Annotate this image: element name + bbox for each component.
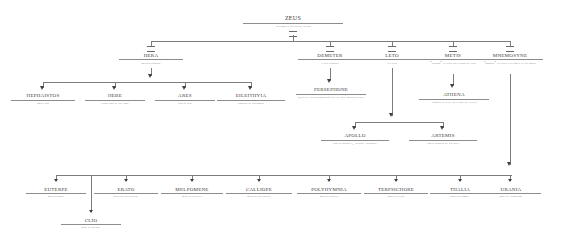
family-tree-diagram: Zeus and some of his divine lovers Hera … (0, 0, 583, 245)
node-polyhymnia-desc: muse of singing (297, 194, 361, 199)
node-erato: Erato muse of love poetry (94, 185, 158, 199)
node-urania-desc: muse of astronomy (481, 194, 541, 199)
arrowhead-urania (508, 179, 512, 182)
node-artemis-name: Artemis (409, 132, 477, 141)
connector-drop-clio (91, 175, 92, 212)
node-athena-desc: goddess of war and patron of Athens (419, 100, 489, 105)
node-polyhymnia: Polyhymnia muse of singing (297, 185, 361, 199)
arrowhead-calliope (257, 179, 261, 182)
node-apollo-desc: god of prophecy, archery and music (321, 141, 389, 146)
node-hera-name: Hera (119, 51, 183, 60)
node-apollo: Apollo god of prophecy, archery and musi… (321, 132, 389, 146)
arrowhead-euterpe (54, 179, 58, 182)
node-persephone-desc: queen of the underworld; wife of Zeus' b… (296, 95, 366, 100)
node-leto-desc: titaness (362, 60, 422, 65)
node-clio-name: Clio (61, 216, 121, 225)
node-eileithyia-name: Eileithyia (217, 92, 285, 101)
arrowhead-terpsichore (394, 179, 398, 182)
node-terpsichore-desc: muse of dance (364, 194, 428, 199)
connector-leto-down (392, 68, 393, 116)
node-clio: Clio muse of history (61, 216, 121, 230)
node-athena-name: Athena (419, 91, 489, 100)
node-calliope-name: Calliope (226, 185, 292, 194)
node-polyhymnia-name: Polyhymnia (297, 185, 361, 194)
node-zeus: Zeus and some of his divine lovers (243, 13, 343, 29)
node-hephaistos-name: Hephaistos (11, 92, 75, 101)
arrowhead-polyhymnia (327, 179, 331, 182)
node-hera-desc: mother goddess (119, 60, 183, 65)
node-erato-name: Erato (94, 185, 158, 194)
node-artemis-desc: virgin goddess of the hunt (409, 141, 477, 146)
arrowhead-clio (89, 210, 93, 213)
node-urania-name: Urania (481, 185, 541, 194)
node-leto-name: Leto (362, 51, 422, 60)
node-clio-desc: muse of history (61, 225, 121, 230)
node-zeus-desc: and some of his divine lovers (243, 24, 343, 29)
node-persephone: Persephone queen of the underworld; wife… (296, 86, 366, 100)
node-calliope-desc: muse of epic poetry (226, 194, 292, 199)
node-demeter: Demeter earth goddess (298, 51, 362, 65)
node-athena: Athena goddess of war and patron of Athe… (419, 91, 489, 105)
node-ares: Ares god of war (155, 92, 215, 106)
node-calliope: Calliope muse of epic poetry (226, 185, 292, 199)
node-leto: Leto titaness (362, 51, 422, 65)
node-eileithyia-desc: goddess of childbirth (217, 101, 285, 106)
arrowhead-eileithyia (248, 86, 252, 90)
node-hebe-name: Hebe (85, 92, 145, 101)
node-euterpe-desc: muse of music (26, 194, 86, 199)
node-ares-name: Ares (155, 92, 215, 101)
node-apollo-name: Apollo (321, 132, 389, 141)
node-terpsichore-name: Terpsichore (364, 185, 428, 194)
node-eileithyia: Eileithyia goddess of childbirth (217, 92, 285, 106)
arrowhead-hephaistos (40, 86, 44, 90)
node-terpsichore: Terpsichore muse of dance (364, 185, 428, 199)
arrowhead-mnemosyne-down (507, 162, 511, 166)
arrowhead-athena (450, 84, 454, 88)
arrowhead-hebe (112, 86, 116, 90)
node-ares-desc: god of war (155, 101, 215, 106)
node-zeus-name: Zeus (243, 13, 343, 24)
node-hephaistos-desc: smith god (11, 101, 75, 106)
arrowhead-persephone (327, 79, 331, 83)
node-hephaistos: Hephaistos smith god (11, 92, 75, 106)
node-mnemosyne: Mnemosyne “memory” titaness gave birth t… (477, 51, 543, 65)
node-erato-desc: muse of love poetry (94, 194, 158, 199)
node-mnemosyne-desc: “memory” titaness gave birth to the Muse… (477, 60, 543, 65)
node-urania: Urania muse of astronomy (481, 185, 541, 199)
node-melpomene-name: Melpomene (161, 185, 223, 194)
node-euterpe-name: Euterpe (26, 185, 86, 194)
node-persephone-name: Persephone (296, 86, 366, 95)
node-hebe-desc: cupbearer of the gods (85, 101, 145, 106)
arrowhead-ares (182, 86, 186, 90)
connector-mnemosyne-down (510, 74, 511, 165)
arrowhead-artemis (440, 126, 444, 130)
node-euterpe: Euterpe muse of music (26, 185, 86, 199)
node-artemis: Artemis virgin goddess of the hunt (409, 132, 477, 146)
arrowhead-hera-down (148, 74, 152, 78)
arrowhead-thalia (458, 179, 462, 182)
node-melpomene-desc: muse of tragedy (161, 194, 223, 199)
node-hebe: Hebe cupbearer of the gods (85, 92, 145, 106)
node-melpomene: Melpomene muse of tragedy (161, 185, 223, 199)
arrowhead-apollo (352, 126, 356, 130)
connector-leto-children-bus (355, 122, 443, 123)
node-demeter-name: Demeter (298, 51, 362, 60)
arrowhead-erato (124, 179, 128, 182)
node-mnemosyne-name: Mnemosyne (477, 51, 543, 60)
arrowhead-leto-down (389, 113, 393, 117)
node-hera: Hera mother goddess (119, 51, 183, 65)
connector-muses-bus (56, 175, 512, 176)
connector-hera-children-bus (43, 82, 251, 83)
arrowhead-melpomene (190, 179, 194, 182)
node-demeter-desc: earth goddess (298, 60, 362, 65)
